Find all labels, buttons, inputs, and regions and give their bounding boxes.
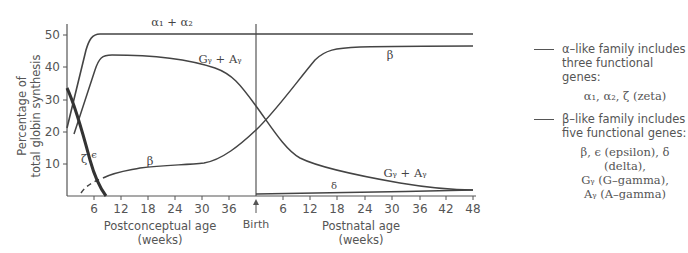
label-zeta: ζ <box>81 152 87 166</box>
label-beta-pre: β <box>147 154 154 168</box>
label-epsilon: ϵ <box>91 149 97 160</box>
y-tick-10: 10 <box>45 157 60 171</box>
x-tick-post-36: 36 <box>412 202 427 216</box>
x-tick-pre-24: 24 <box>167 202 182 216</box>
x-tick-pre-12: 12 <box>113 202 128 216</box>
legend-alpha-line2: three functional genes: <box>562 56 688 84</box>
x-axis-title-postnatal: Postnatal age <box>322 219 400 233</box>
x-axis-title-prenatal: Postconceptual age <box>104 219 217 233</box>
x-tick-post-6: 6 <box>279 202 287 216</box>
x-axis-title-postnatal-unit: (weeks) <box>338 233 383 247</box>
x-tick-pre-36: 36 <box>221 202 236 216</box>
curve-delta <box>256 190 473 194</box>
legend-alpha-genes: α₁, α₂, ζ (zeta) <box>562 89 688 103</box>
x-ticks-postnatal <box>283 196 473 200</box>
birth-label: Birth <box>243 218 269 231</box>
curve-zeta-epsilon <box>67 88 106 196</box>
x-tick-post-12: 12 <box>302 202 317 216</box>
x-tick-post-24: 24 <box>357 202 372 216</box>
curve-alpha1-alpha2 <box>67 34 473 128</box>
x-axis-title-prenatal-unit: (weeks) <box>137 233 182 247</box>
curve-beta <box>103 46 473 178</box>
legend-beta-genes: β, ϵ (epsilon), δ (delta), Gᵧ (G–gamma),… <box>562 145 688 201</box>
x-tick-post-42: 42 <box>438 202 453 216</box>
label-delta: δ <box>331 180 337 191</box>
legend-beta-gene-line-2: Gᵧ (G–gamma), <box>562 173 688 187</box>
x-tick-post-48: 48 <box>465 202 480 216</box>
birth-arrow-icon <box>253 199 259 213</box>
legend-beta-gene-line-3: Aᵧ (A–gamma) <box>562 187 688 201</box>
y-axis-title-line2: total globin synthesis <box>29 54 43 177</box>
label-gamma-pre: Gᵧ + Aᵧ <box>198 52 241 66</box>
legend-beta-line1: β–like family includes <box>562 112 688 126</box>
legend-alpha: α–like family includes three functional … <box>534 42 688 103</box>
label-alpha12: α₁ + α₂ <box>151 15 193 29</box>
legend-beta-line2: five functional genes: <box>562 126 688 140</box>
label-beta-post: β <box>387 48 394 62</box>
legend-beta-swatch <box>534 119 554 120</box>
legend-alpha-gene-line: α₁, α₂, ζ (zeta) <box>562 89 688 103</box>
x-tick-post-30: 30 <box>384 202 399 216</box>
legend-beta-gene-line-1: β, ϵ (epsilon), δ (delta), <box>562 145 688 173</box>
x-tick-pre-30: 30 <box>194 202 209 216</box>
label-gamma-post: Gᵧ + Aᵧ <box>383 166 426 180</box>
x-tick-pre-6: 6 <box>90 202 98 216</box>
y-axis-title-line1: Percentage of <box>15 75 29 155</box>
y-tick-20: 20 <box>45 125 60 139</box>
y-tick-30: 30 <box>45 93 60 107</box>
x-ticks-prenatal <box>94 196 229 200</box>
y-tick-50: 50 <box>45 28 60 42</box>
legend-alpha-line1: α–like family includes <box>562 42 688 56</box>
legend-beta: β–like family includes five functional g… <box>534 112 688 201</box>
x-tick-post-18: 18 <box>329 202 344 216</box>
legend-alpha-swatch <box>534 49 554 50</box>
y-tick-40: 40 <box>45 60 60 74</box>
x-tick-pre-18: 18 <box>140 202 155 216</box>
